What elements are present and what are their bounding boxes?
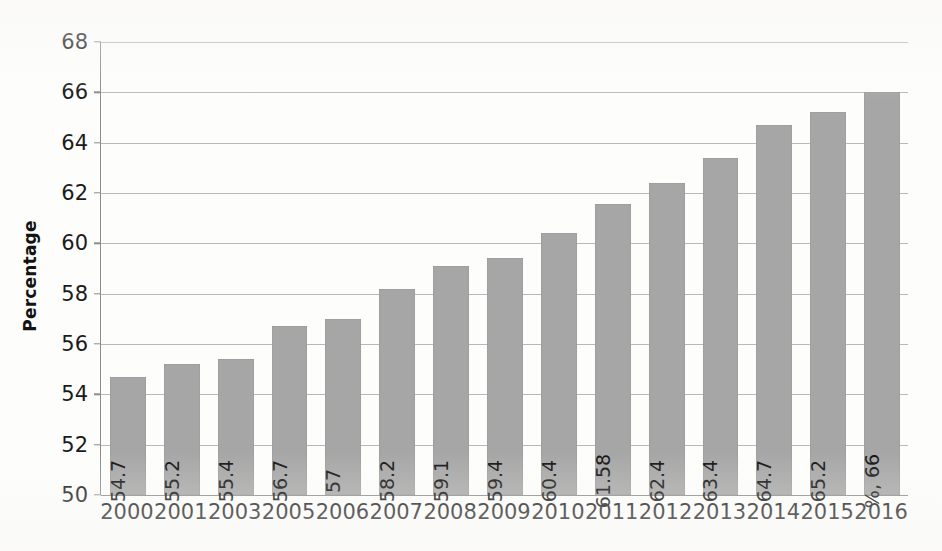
bar[interactable]: 65.2 xyxy=(810,112,846,495)
bar-value-label: 59.1 xyxy=(432,460,451,502)
bar-value-label: 55.4 xyxy=(217,460,236,502)
bar[interactable]: 64.7 xyxy=(756,125,792,495)
bar[interactable]: 59.1 xyxy=(433,266,469,495)
bar-value-label: 56.7 xyxy=(271,460,290,502)
x-tick-label: 2011 xyxy=(585,502,638,523)
x-tick-label: 2003 xyxy=(208,502,261,523)
y-tick-label: 52 xyxy=(61,434,101,455)
chart-figure: Percentage 50525456586062646668 54.755.2… xyxy=(0,0,942,551)
bar-value-label: 58.2 xyxy=(378,460,397,502)
x-tick-label: 2012 xyxy=(639,502,692,523)
bar[interactable]: 62.4 xyxy=(649,183,685,495)
bar-value-label: 60.4 xyxy=(540,460,559,502)
x-tick-label: 2015 xyxy=(800,502,853,523)
bar[interactable]: 55.2 xyxy=(164,364,200,495)
bar[interactable]: 54.7 xyxy=(110,377,146,495)
bar[interactable]: 59.4 xyxy=(487,258,523,495)
x-tick-label: 2000 xyxy=(100,502,153,523)
y-tick-label: 50 xyxy=(61,485,101,506)
bar-value-label: 55.2 xyxy=(163,460,182,502)
y-tick-label: 66 xyxy=(61,82,101,103)
bar-series: 54.755.255.456.75758.259.159.460.461.586… xyxy=(101,42,908,495)
bar[interactable]: 61.58 xyxy=(595,204,631,495)
x-tick-label: 2016 xyxy=(854,502,907,523)
y-tick-label: 64 xyxy=(61,132,101,153)
x-tick-label: 2005 xyxy=(262,502,315,523)
bar[interactable]: 60.4 xyxy=(541,233,577,495)
bar-value-label: 59.4 xyxy=(486,460,505,502)
x-axis-ticks: 2000200120032005200620072008200920102011… xyxy=(100,502,908,536)
bar[interactable]: %, 66 xyxy=(864,92,900,495)
x-tick-label: 2009 xyxy=(477,502,530,523)
bar-value-label: 63.4 xyxy=(701,460,720,502)
bar-value-label: 54.7 xyxy=(109,460,128,502)
y-tick-label: 62 xyxy=(61,183,101,204)
bar[interactable]: 56.7 xyxy=(272,326,308,495)
y-tick-label: 58 xyxy=(61,283,101,304)
x-tick-label: 2007 xyxy=(370,502,423,523)
bar-value-label: 62.4 xyxy=(648,460,667,502)
bar[interactable]: 63.4 xyxy=(703,158,739,495)
x-tick-label: 2006 xyxy=(316,502,369,523)
y-axis-title-label: Percentage xyxy=(20,220,40,331)
x-tick-label: 2013 xyxy=(693,502,746,523)
x-tick-label: 2008 xyxy=(423,502,476,523)
bar[interactable]: 58.2 xyxy=(379,289,415,495)
x-tick-label: 2010 xyxy=(531,502,584,523)
x-tick-label: 2014 xyxy=(747,502,800,523)
y-tick-label: 54 xyxy=(61,384,101,405)
y-axis-title: Percentage xyxy=(10,0,50,551)
x-tick-label: 2001 xyxy=(154,502,207,523)
y-tick-label: 56 xyxy=(61,334,101,355)
bar-value-label: 64.7 xyxy=(755,460,774,502)
bar[interactable]: 55.4 xyxy=(218,359,254,495)
y-tick-label: 68 xyxy=(61,32,101,53)
bar-value-label: 57 xyxy=(324,469,343,493)
y-tick-label: 60 xyxy=(61,233,101,254)
bar[interactable]: 57 xyxy=(325,319,361,495)
plot-area: 50525456586062646668 54.755.255.456.7575… xyxy=(100,42,908,495)
bar-value-label: 65.2 xyxy=(809,460,828,502)
